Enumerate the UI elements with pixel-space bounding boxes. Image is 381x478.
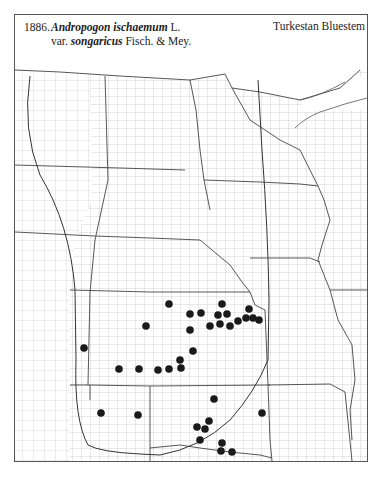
- lake-superior: [300, 74, 367, 112]
- occurrence-dot: [193, 423, 201, 431]
- occurrence-dot: [177, 364, 185, 372]
- distribution-map: [0, 0, 381, 478]
- occurrence-dot: [255, 316, 263, 324]
- occurrence-dot: [165, 300, 173, 308]
- occurrence-dot: [234, 317, 242, 325]
- occurrence-dot: [97, 409, 105, 417]
- occurrence-dot: [258, 409, 266, 417]
- occurrence-dot: [176, 356, 184, 364]
- occurrence-dot: [134, 411, 142, 419]
- occurrence-dot: [142, 322, 150, 330]
- occurrence-dot: [186, 326, 194, 334]
- occurrence-dot: [115, 365, 123, 373]
- occurrence-dot: [135, 365, 143, 373]
- occurrence-dot: [165, 365, 173, 373]
- occurrence-dot: [201, 425, 209, 433]
- occurrence-dot: [217, 447, 225, 455]
- occurrence-dot: [80, 344, 88, 352]
- occurrence-dot: [205, 417, 213, 425]
- occurrence-dot: [228, 448, 236, 456]
- occurrence-dot: [218, 439, 226, 447]
- occurrence-dot: [223, 310, 231, 318]
- occurrence-dot: [216, 320, 224, 328]
- occurrence-dot: [196, 436, 204, 444]
- occurrence-dot: [189, 347, 197, 355]
- occurrence-dot: [242, 314, 250, 322]
- occurrence-dot: [226, 322, 234, 330]
- map-base: [15, 70, 367, 478]
- occurrence-dot: [186, 310, 194, 318]
- occurrence-dot: [154, 366, 162, 374]
- occurrence-dot: [218, 300, 226, 308]
- occurrence-dot: [245, 305, 253, 313]
- occurrence-dot: [197, 309, 205, 317]
- occurrence-dot: [214, 311, 222, 319]
- occurrence-dot: [206, 322, 214, 330]
- occurrence-dot: [210, 395, 218, 403]
